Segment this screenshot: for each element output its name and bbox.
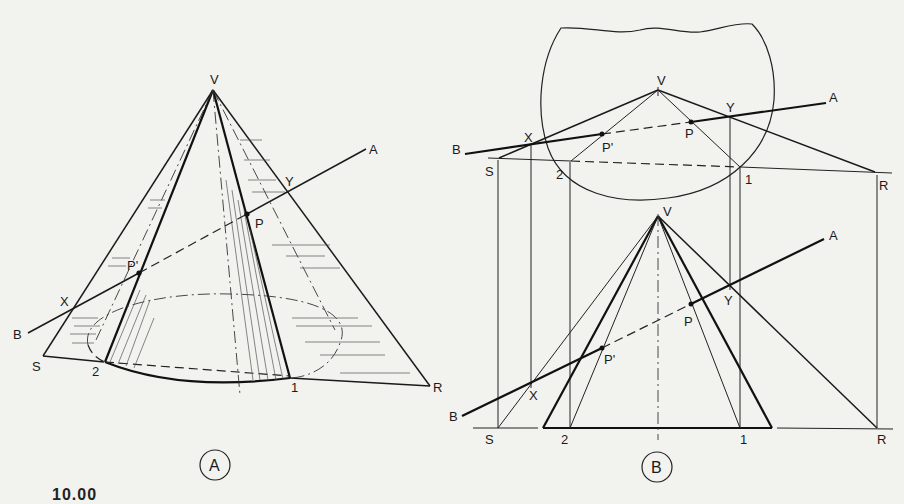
front-label-s: S xyxy=(485,432,494,447)
label-s: S xyxy=(32,359,41,374)
front-label-v: V xyxy=(663,204,672,219)
label-1: 1 xyxy=(291,380,298,395)
cone-base-front-arc xyxy=(105,362,290,382)
hidden-generator-left xyxy=(96,90,213,340)
line-ab-hidden xyxy=(139,214,247,273)
label-r: R xyxy=(433,380,442,395)
cone-base-hidden-left xyxy=(88,345,105,362)
badge-a-label: A xyxy=(209,457,220,474)
top-label-y: Y xyxy=(726,100,735,115)
cone-edge-v1 xyxy=(213,90,290,378)
top-label-s: S xyxy=(485,164,494,179)
front-point-p-prime xyxy=(600,346,605,351)
top-line-ab-hidden xyxy=(602,122,691,134)
front-cone-left-edge xyxy=(543,216,658,428)
top-line-ab-left xyxy=(465,134,602,154)
front-generator-v1 xyxy=(658,216,740,428)
front-label-x: X xyxy=(529,388,538,403)
view-a-pictorial: V A B X Y P P' S 2 1 R A xyxy=(13,72,442,480)
front-label-p-prime: P' xyxy=(604,352,615,367)
front-cone-right-edge xyxy=(658,216,772,428)
top-label-r: R xyxy=(879,178,888,193)
point-p-marker xyxy=(244,211,249,216)
top-point-p xyxy=(689,120,694,125)
front-label-a: A xyxy=(829,228,838,243)
top-label-a: A xyxy=(829,90,838,105)
line-ab-visible-right xyxy=(247,149,366,214)
top-label-x: X xyxy=(524,130,533,145)
front-line-ab-hidden xyxy=(602,304,691,348)
top-label-1: 1 xyxy=(745,172,752,187)
front-point-p xyxy=(689,302,694,307)
front-label-p: P xyxy=(684,314,693,329)
cone-edge-v2 xyxy=(105,90,213,362)
top-plane-vs xyxy=(499,90,658,158)
front-label-2: 2 xyxy=(561,432,568,447)
front-label-b: B xyxy=(449,409,458,424)
label-b: B xyxy=(13,327,22,342)
front-label-r: R xyxy=(877,432,886,447)
view-b-front: V A B X Y P P' S 2 1 R B xyxy=(449,204,893,482)
shading-hatch xyxy=(70,140,410,380)
top-base-hidden xyxy=(571,161,740,167)
label-x: X xyxy=(60,294,69,309)
label-a: A xyxy=(369,142,378,157)
hidden-base-chord xyxy=(105,362,290,376)
top-label-v: V xyxy=(657,73,666,88)
top-label-b: B xyxy=(452,142,461,157)
front-plane-vs xyxy=(498,216,658,428)
top-label-p-prime: P' xyxy=(602,140,613,155)
front-label-y: Y xyxy=(724,293,733,308)
figure-caption-fragment: 10.00 xyxy=(52,486,97,504)
view-b-top: V A B X Y P P' S 2 1 R xyxy=(452,24,892,200)
badge-b-label: B xyxy=(651,459,662,476)
top-generator-v2 xyxy=(571,90,658,161)
label-y: Y xyxy=(285,174,294,189)
plane-edge-vs xyxy=(43,90,213,356)
front-line-ab-left xyxy=(462,348,602,416)
label-2: 2 xyxy=(92,364,99,379)
plane-base-1r xyxy=(290,378,430,386)
plane-base-s2 xyxy=(43,356,104,362)
top-line-ab-right xyxy=(691,103,826,122)
cone-base-hidden-ellipse xyxy=(87,294,342,378)
base-circle-cutaway xyxy=(541,24,774,200)
front-line-ab-right xyxy=(691,239,824,304)
plane-edge-vr xyxy=(213,90,430,386)
front-ground-right xyxy=(777,428,893,429)
label-p-prime: P' xyxy=(127,258,138,273)
top-label-p: P xyxy=(685,126,694,141)
top-base-s2 xyxy=(488,158,571,161)
label-v: V xyxy=(210,72,219,87)
front-label-1: 1 xyxy=(740,432,747,447)
top-point-p-prime xyxy=(600,132,605,137)
front-generator-v2 xyxy=(570,216,658,428)
line-ab-visible-left xyxy=(28,273,139,333)
top-label-2: 2 xyxy=(556,167,563,182)
label-p: P xyxy=(255,216,264,231)
